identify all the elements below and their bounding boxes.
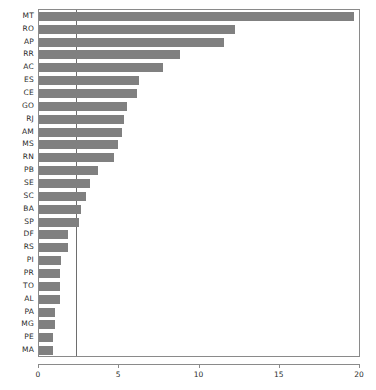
bar-row: [39, 295, 360, 304]
bar-rr: [39, 50, 180, 59]
y-tick-label-ms: MS: [0, 139, 34, 148]
y-tick-label-pe: PE: [0, 332, 34, 341]
bar-row: [39, 128, 360, 137]
x-tick-label-5: 5: [116, 370, 121, 379]
y-tick-label-sp: SP: [0, 217, 34, 226]
bar-es: [39, 76, 139, 85]
bar-row: [39, 63, 360, 72]
y-tick-label-go: GO: [0, 101, 34, 110]
y-tick-label-mt: MT: [0, 11, 34, 20]
y-tick-label-ba: BA: [0, 204, 34, 213]
y-tick-label-ce: CE: [0, 88, 34, 97]
y-tick-label-rs: RS: [0, 242, 34, 251]
bar-row: [39, 282, 360, 291]
y-axis-labels: MTROAPRRACESCEGORJAMMSRNPBSESCBASPDFRSPI…: [0, 9, 34, 357]
bar-ms: [39, 140, 118, 149]
bar-row: [39, 89, 360, 98]
y-tick-label-ac: AC: [0, 62, 34, 71]
bar-row: [39, 230, 360, 239]
bar-pb: [39, 166, 98, 175]
y-tick-label-se: SE: [0, 178, 34, 187]
bar-row: [39, 320, 360, 329]
y-tick-label-rn: RN: [0, 152, 34, 161]
bar-ro: [39, 25, 235, 34]
x-tick-20: [359, 364, 360, 368]
bar-row: [39, 256, 360, 265]
y-tick-label-pr: PR: [0, 268, 34, 277]
bar-am: [39, 128, 122, 137]
bar-rs: [39, 243, 68, 252]
y-tick-label-es: ES: [0, 75, 34, 84]
x-axis: 05101520: [38, 364, 360, 365]
x-tick-0: [38, 364, 39, 368]
bar-chart: MTROAPRRACESCEGORJAMMSRNPBSESCBASPDFRSPI…: [0, 0, 376, 390]
bar-pr: [39, 269, 60, 278]
x-tick-5: [118, 364, 119, 368]
y-tick-label-am: AM: [0, 127, 34, 136]
bar-row: [39, 243, 360, 252]
bar-al: [39, 295, 60, 304]
bar-rj: [39, 115, 124, 124]
bar-row: [39, 308, 360, 317]
bar-row: [39, 38, 360, 47]
x-tick-label-0: 0: [36, 370, 41, 379]
bar-mg: [39, 320, 55, 329]
bar-row: [39, 115, 360, 124]
y-tick-label-pa: PA: [0, 307, 34, 316]
bar-row: [39, 192, 360, 201]
bar-row: [39, 333, 360, 342]
y-tick-label-ma: MA: [0, 345, 34, 354]
bar-row: [39, 25, 360, 34]
x-tick-label-10: 10: [194, 370, 204, 379]
bar-row: [39, 153, 360, 162]
y-tick-label-df: DF: [0, 229, 34, 238]
bar-se: [39, 179, 90, 188]
bar-row: [39, 12, 360, 21]
bar-sp: [39, 218, 79, 227]
bar-row: [39, 76, 360, 85]
bar-pe: [39, 333, 53, 342]
x-tick-label-15: 15: [274, 370, 284, 379]
bar-row: [39, 179, 360, 188]
x-tick-label-20: 20: [354, 370, 364, 379]
y-tick-label-ap: AP: [0, 37, 34, 46]
bar-to: [39, 282, 60, 291]
bar-row: [39, 50, 360, 59]
bar-row: [39, 269, 360, 278]
bar-row: [39, 102, 360, 111]
bar-row: [39, 205, 360, 214]
x-tick-10: [199, 364, 200, 368]
y-tick-label-mg: MG: [0, 319, 34, 328]
y-tick-label-ro: RO: [0, 24, 34, 33]
bar-rn: [39, 153, 114, 162]
y-tick-label-rj: RJ: [0, 114, 34, 123]
bar-row: [39, 218, 360, 227]
y-tick-label-pi: PI: [0, 255, 34, 264]
y-tick-label-sc: SC: [0, 191, 34, 200]
bar-pa: [39, 308, 55, 317]
y-tick-label-pb: PB: [0, 165, 34, 174]
bar-df: [39, 230, 68, 239]
bar-row: [39, 346, 360, 355]
y-tick-label-rr: RR: [0, 49, 34, 58]
bar-ba: [39, 205, 81, 214]
x-tick-15: [279, 364, 280, 368]
bar-go: [39, 102, 127, 111]
bar-row: [39, 140, 360, 149]
bar-ce: [39, 89, 137, 98]
bar-ma: [39, 346, 53, 355]
bar-ac: [39, 63, 163, 72]
bar-ap: [39, 38, 224, 47]
y-tick-label-al: AL: [0, 294, 34, 303]
bar-mt: [39, 12, 354, 21]
plot-area: [38, 9, 360, 357]
bar-pi: [39, 256, 61, 265]
bar-row: [39, 166, 360, 175]
bar-sc: [39, 192, 86, 201]
y-tick-label-to: TO: [0, 281, 34, 290]
